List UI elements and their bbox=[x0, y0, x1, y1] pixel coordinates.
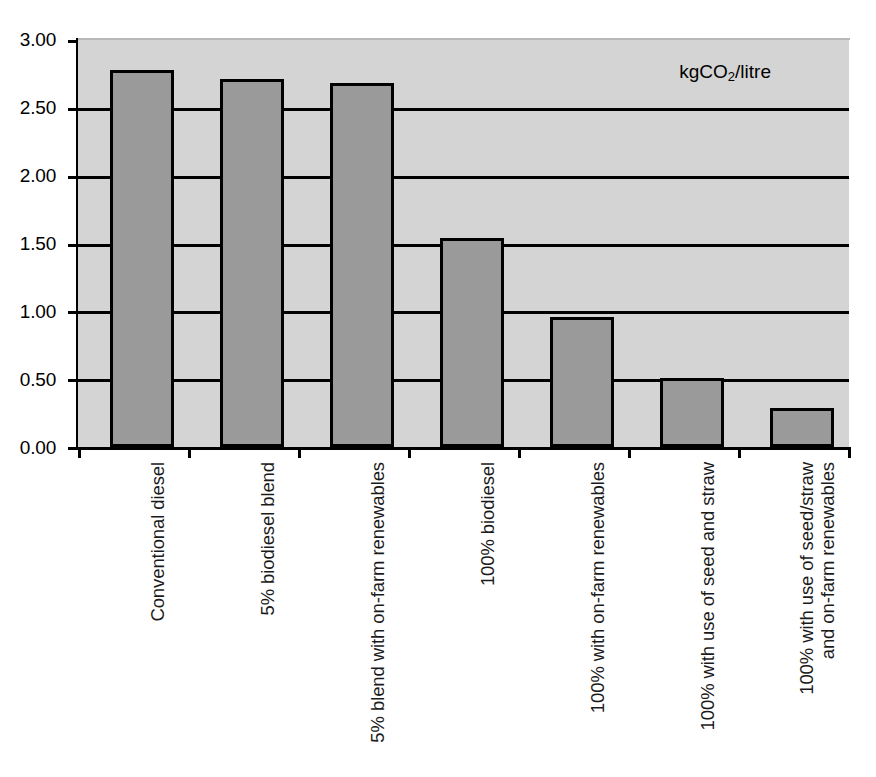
y-tick-label: 2.00 bbox=[20, 166, 56, 185]
x-label-5-blend-on-farm-renewables: 5% blend with on-farm renewables bbox=[367, 462, 388, 762]
y-tick-label: 0.00 bbox=[20, 438, 56, 457]
bar-5-biodiesel-blend[interactable] bbox=[220, 79, 284, 447]
x-tick-mark bbox=[628, 447, 631, 458]
y-tick-label: 0.50 bbox=[20, 370, 56, 389]
units-annotation-prefix: kgCO bbox=[679, 61, 728, 82]
y-tick-label: 2.50 bbox=[20, 98, 56, 117]
x-label-100-biodiesel: 100% biodiesel bbox=[477, 462, 498, 762]
bar-100-biodiesel[interactable] bbox=[440, 238, 504, 447]
x-tick-mark bbox=[738, 447, 741, 458]
x-label-100-seed-straw-and-on-farm-renewables: 100% with use of seed/straw and on-farm … bbox=[796, 462, 838, 762]
x-tick-mark bbox=[848, 447, 851, 458]
bar-5-blend-on-farm-renewables[interactable] bbox=[330, 83, 394, 447]
bars-layer bbox=[78, 40, 849, 447]
x-tick-mark bbox=[298, 447, 301, 458]
x-label-5-biodiesel-blend: 5% biodiesel blend bbox=[257, 462, 278, 762]
units-annotation: kgCO2/litre bbox=[679, 62, 771, 87]
y-tick-label: 1.00 bbox=[20, 302, 56, 321]
y-axis: 3.00 2.50 2.00 1.50 1.00 0.50 0.00 bbox=[0, 0, 68, 777]
bar-100-seed-and-straw[interactable] bbox=[660, 378, 724, 447]
units-annotation-suffix: /litre bbox=[735, 61, 771, 82]
bar-chart-figure: 3.00 2.50 2.00 1.50 1.00 0.50 0.00 bbox=[0, 0, 876, 777]
x-axis-category-labels: Conventional diesel 5% biodiesel blend 5… bbox=[78, 462, 849, 762]
y-tick-label: 1.50 bbox=[20, 234, 56, 253]
y-tick-label: 3.00 bbox=[20, 30, 56, 49]
x-tick-mark bbox=[518, 447, 521, 458]
bar-100-seed-straw-and-on-farm-renewables[interactable] bbox=[770, 408, 834, 447]
x-axis-line bbox=[76, 447, 851, 450]
x-tick-mark bbox=[408, 447, 411, 458]
x-label-conventional-diesel: Conventional diesel bbox=[147, 462, 168, 762]
x-label-100-on-farm-renewables: 100% with on-farm renewables bbox=[587, 462, 608, 762]
x-tick-mark bbox=[78, 447, 81, 458]
x-label-100-seed-and-straw: 100% with use of seed and straw bbox=[697, 462, 718, 762]
bar-conventional-diesel[interactable] bbox=[110, 70, 174, 447]
caption-fragment bbox=[18, 768, 138, 775]
units-annotation-subscript: 2 bbox=[728, 69, 735, 84]
plot-area: kgCO2/litre bbox=[78, 40, 849, 447]
x-tick-mark bbox=[188, 447, 191, 458]
bar-100-on-farm-renewables[interactable] bbox=[550, 317, 614, 447]
